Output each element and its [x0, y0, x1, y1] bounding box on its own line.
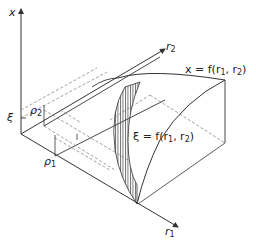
base-edge-right: [138, 143, 225, 204]
top-surface-equation: x = f(r1, r2): [185, 64, 246, 77]
r1-axis: [21, 134, 178, 227]
r2-axis: [21, 49, 165, 134]
ridge-line-lower: [55, 100, 165, 156]
rho2-label: ρ2: [30, 105, 42, 118]
surface-diagram: [0, 0, 256, 246]
x-axis-label: x: [9, 7, 16, 18]
ridge-line-upper: [44, 57, 160, 126]
r1-axis-label: r1: [165, 226, 175, 239]
rho1-label: ρ1: [44, 156, 56, 169]
xi-label: ξ: [7, 112, 13, 123]
diagram-canvas: x r2 r1 ξ ρ2 ρ1 x = f(r1, r2) ξ = f(r1, …: [0, 0, 256, 246]
dashed-proj-5: [55, 138, 110, 170]
bottom-surface-equation: ξ = f(r1, r2): [133, 131, 194, 144]
dashed-proj-6: [60, 110, 80, 122]
r2-axis-label: r2: [166, 41, 176, 54]
